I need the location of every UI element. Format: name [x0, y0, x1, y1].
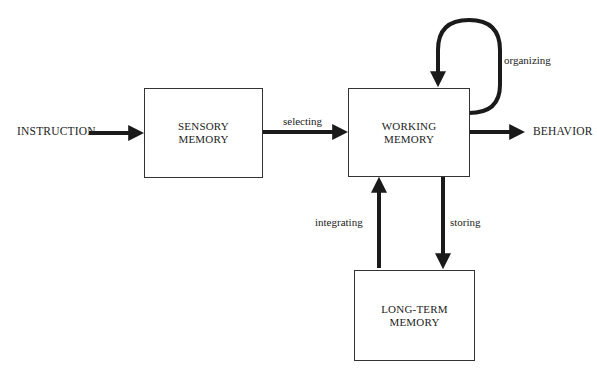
integrating-label: integrating — [315, 216, 363, 228]
sensory-memory-box: SENSORY MEMORY — [144, 88, 263, 178]
selecting-label: selecting — [283, 115, 322, 127]
sensory-memory-line1: SENSORY — [178, 120, 229, 133]
organizing-label: organizing — [504, 54, 551, 66]
long-term-memory-line2: MEMORY — [389, 316, 439, 329]
behavior-label: BEHAVIOR — [533, 125, 593, 137]
working-memory-line2: MEMORY — [384, 133, 434, 146]
working-memory-line1: WORKING — [382, 120, 437, 133]
working-memory-box: WORKING MEMORY — [348, 88, 470, 177]
long-term-memory-box: LONG-TERM MEMORY — [354, 270, 475, 361]
long-term-memory-line1: LONG-TERM — [381, 303, 448, 316]
storing-label: storing — [450, 216, 481, 228]
instruction-label: INSTRUCTION — [17, 125, 96, 137]
sensory-memory-line2: MEMORY — [178, 133, 228, 146]
